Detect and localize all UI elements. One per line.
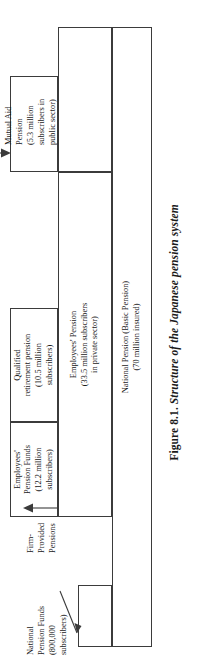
box-employees-pension-funds: Employees' Pension Funds (12.2 million s…: [10, 422, 58, 517]
box-qrp-line-3: (10.5 million: [34, 334, 45, 397]
label-npf-line-4: subscribers): [59, 606, 70, 655]
figure-caption-number: Figure 8.1.: [168, 407, 180, 461]
box-employees-pension: Employees' Pension (33.5 million subscri…: [58, 172, 112, 517]
label-mutual-line-1: Mutual Aid: [4, 99, 15, 145]
label-mutual-line-2: Pension: [15, 99, 26, 145]
box-basic-line-1: National Pension (Basic Pension): [121, 281, 132, 393]
figure-caption-title: Structure of the Japanese pension system: [168, 204, 180, 404]
label-firm-line-2: Provided: [37, 523, 48, 553]
label-firm-line-3: Pensions: [48, 523, 59, 553]
box-employees-line-2: (33.5 million subscribers: [80, 303, 91, 387]
label-mutual-line-3: (5.3 million: [26, 99, 37, 145]
box-national-pension-basic: National Pension (Basic Pension) (70 mil…: [112, 27, 152, 647]
label-mutual-line-4: subscribers in: [37, 99, 48, 145]
pension-structure-diagram: National Pension (Basic Pension) (70 mil…: [0, 0, 162, 665]
box-qualified-retirement-pension: Qualified retirement pension (10.5 milli…: [10, 308, 58, 422]
figure-wrapper: National Pension (Basic Pension) (70 mil…: [0, 0, 198, 665]
box-qrp-line-2: retirement pension: [23, 334, 34, 397]
label-firm-provided-pensions: Firm- Provided Pensions: [26, 523, 59, 553]
box-basic-line-2: (70 million insured): [132, 281, 143, 393]
box-epf-line-4: subscribers): [45, 445, 56, 494]
box-qrp-line-1: Qualified: [13, 334, 24, 397]
label-npf-line-3: (800,000: [48, 606, 59, 655]
label-national-pension-funds: National Pension Funds (800,000 subscrib…: [26, 606, 70, 655]
box-employees-line-3: in private sector): [90, 303, 101, 387]
label-firm-line-1: Firm-: [26, 523, 37, 553]
box-employees-line-1: Employees' Pension: [69, 303, 80, 387]
box-mutual-aid-band: [58, 27, 112, 172]
label-npf-line-2: Pension Funds: [37, 606, 48, 655]
figure-caption: Figure 8.1. Structure of the Japanese pe…: [168, 0, 180, 665]
box-national-pension-funds: [78, 585, 112, 647]
box-epf-line-2: Pension Funds: [23, 445, 34, 494]
box-epf-line-3: (12.2 million: [34, 445, 45, 494]
rotated-figure-canvas: National Pension (Basic Pension) (70 mil…: [0, 0, 198, 665]
box-epf-line-1: Employees': [13, 445, 24, 494]
label-npf-line-1: National: [26, 606, 37, 655]
label-mutual-aid-pension: Mutual Aid Pension (5.3 million subscrib…: [4, 99, 59, 145]
label-mutual-line-5: public sector): [48, 99, 59, 145]
box-qrp-line-4: subscribers): [45, 334, 56, 397]
